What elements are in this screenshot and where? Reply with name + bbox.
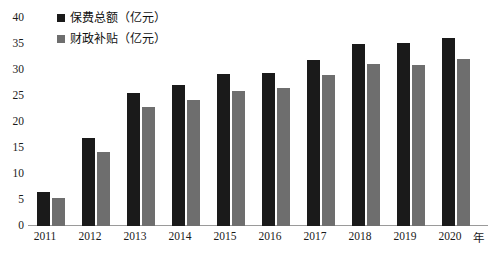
bar-primary xyxy=(127,93,140,226)
bar-group xyxy=(442,18,472,226)
x-tick-label: 2012 xyxy=(68,231,112,243)
x-tick-label: 2013 xyxy=(113,231,157,243)
bar-secondary xyxy=(97,152,110,226)
y-tick-label: 15 xyxy=(13,142,25,154)
x-tick-label: 2014 xyxy=(158,231,202,243)
y-tick-label: 40 xyxy=(13,12,25,24)
bar-secondary xyxy=(277,88,290,226)
x-tick-label: 2016 xyxy=(248,231,292,243)
bar-group xyxy=(307,18,337,226)
x-tick-label: 2018 xyxy=(338,231,382,243)
bar-secondary xyxy=(232,91,245,226)
y-tick-label: 5 xyxy=(18,194,24,206)
x-axis-title: 年 xyxy=(473,233,484,245)
legend-label-primary: 保费总额（亿元） xyxy=(70,12,166,24)
bar-primary xyxy=(82,138,95,226)
x-axis: 2011201220132014201520162017201820192020 xyxy=(33,231,501,253)
bar-secondary xyxy=(187,100,200,226)
bar-secondary xyxy=(322,75,335,226)
bar-group xyxy=(172,18,202,226)
y-tick-label: 10 xyxy=(13,168,25,180)
bar-primary xyxy=(262,73,275,226)
y-tick-label: 0 xyxy=(18,220,24,232)
bar-primary xyxy=(172,85,185,226)
bar-group xyxy=(262,18,292,226)
y-axis: 0510152025303540 xyxy=(0,0,30,261)
chart-legend: 保费总额（亿元） 财政补贴（亿元） xyxy=(57,9,166,51)
x-tick-label: 2011 xyxy=(23,231,67,243)
legend-entry-secondary: 财政补贴（亿元） xyxy=(57,30,166,47)
legend-entry-primary: 保费总额（亿元） xyxy=(57,9,166,26)
y-tick-label: 30 xyxy=(13,64,25,76)
bar-primary xyxy=(397,43,410,226)
bar-primary xyxy=(217,74,230,226)
bar-secondary xyxy=(367,64,380,226)
y-tick-label: 35 xyxy=(13,38,25,50)
x-tick-label: 2020 xyxy=(428,231,472,243)
x-tick-label: 2017 xyxy=(293,231,337,243)
bar-primary xyxy=(37,192,50,226)
bar-chart: 0510152025303540 20112012201320142015201… xyxy=(0,0,501,261)
bar-primary xyxy=(307,60,320,226)
bar-secondary xyxy=(457,59,470,226)
legend-swatch-primary-icon xyxy=(57,14,65,22)
y-tick-label: 25 xyxy=(13,90,25,102)
bar-secondary xyxy=(142,107,155,226)
legend-label-secondary: 财政补贴（亿元） xyxy=(70,33,166,45)
bar-primary xyxy=(442,38,455,226)
x-tick-label: 2015 xyxy=(203,231,247,243)
bar-primary xyxy=(352,44,365,226)
bar-group xyxy=(397,18,427,226)
legend-swatch-secondary-icon xyxy=(57,35,65,43)
bar-secondary xyxy=(412,65,425,226)
y-tick-label: 20 xyxy=(13,116,25,128)
bar-secondary xyxy=(52,198,65,226)
x-tick-label: 2019 xyxy=(383,231,427,243)
bar-group xyxy=(352,18,382,226)
bar-group xyxy=(217,18,247,226)
